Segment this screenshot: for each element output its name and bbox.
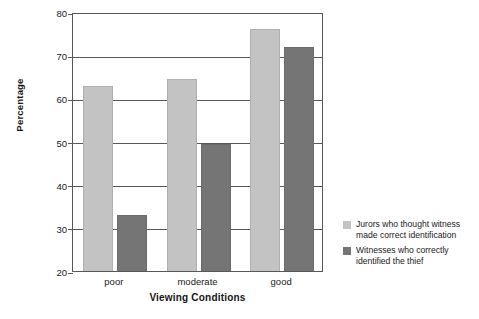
y-tick-mark	[68, 143, 73, 144]
plot-area: 20304050607080	[72, 13, 323, 272]
y-tick-label: 30	[56, 225, 67, 235]
legend-item-label: Witnesses who correctly identified the t…	[356, 245, 449, 266]
legend-swatch-icon	[343, 247, 351, 255]
bar	[250, 29, 280, 271]
legend-line-1: Witnesses who correctly	[356, 245, 449, 255]
y-tick-label: 50	[56, 139, 67, 149]
y-tick-label: 40	[56, 182, 67, 192]
y-tick-mark	[68, 229, 73, 230]
y-tick-mark	[68, 273, 73, 274]
x-tick-label: good	[271, 276, 292, 287]
y-axis-title: Percentage	[14, 4, 32, 114]
legend-item: Jurors who thought witness made correct …	[343, 219, 475, 240]
bar-chart-figure: Percentage 20304050607080 Viewing Condit…	[0, 0, 479, 319]
x-tick-label: moderate	[177, 276, 217, 287]
y-tick-mark	[68, 100, 73, 101]
legend-line-2: made correct identification	[356, 230, 456, 240]
legend-item-label: Jurors who thought witness made correct …	[356, 219, 460, 240]
bar	[284, 47, 314, 271]
bar	[201, 144, 231, 271]
chart-legend: Jurors who thought witness made correct …	[343, 219, 475, 271]
y-tick-mark	[68, 14, 73, 15]
y-tick-mark	[68, 186, 73, 187]
y-tick-label: 70	[56, 52, 67, 62]
legend-line-2: identified the thief	[356, 256, 423, 266]
y-tick-label: 20	[56, 268, 67, 278]
legend-line-1: Jurors who thought witness	[356, 219, 460, 229]
y-tick-label: 80	[56, 9, 67, 19]
y-tick-label: 60	[56, 96, 67, 106]
y-axis-title-text: Percentage	[14, 50, 25, 160]
y-tick-mark	[68, 57, 73, 58]
x-tick-label: poor	[104, 276, 123, 287]
legend-item: Witnesses who correctly identified the t…	[343, 245, 475, 266]
bar	[167, 79, 197, 271]
legend-swatch-icon	[343, 221, 351, 229]
x-axis-title: Viewing Conditions	[72, 292, 323, 303]
bar	[83, 86, 113, 271]
bar	[117, 215, 147, 271]
